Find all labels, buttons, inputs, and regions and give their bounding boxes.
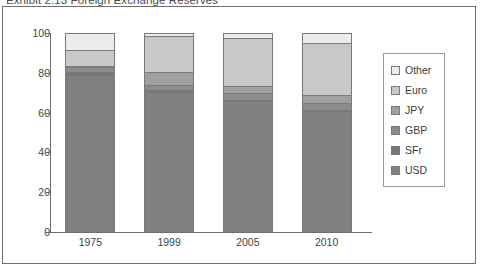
- y-tick-mark: [45, 192, 50, 193]
- bar-segment-2010-Other[interactable]: [303, 34, 351, 43]
- bar-1999[interactable]: [144, 33, 194, 232]
- bar-segment-2010-Euro[interactable]: [303, 43, 351, 95]
- y-tick-mark: [45, 232, 50, 233]
- bar-segment-1975-USD[interactable]: [66, 75, 114, 232]
- bar-segment-2010-GBP[interactable]: [303, 103, 351, 111]
- x-tick-label-1999: 1999: [134, 236, 204, 248]
- y-tick-mark: [45, 152, 50, 153]
- exhibit-caption: Exhibit 2.13 Foreign Exchange Reserves: [6, 0, 406, 8]
- legend-label: Other: [405, 64, 431, 76]
- bar-segment-1975-Euro[interactable]: [66, 50, 114, 66]
- y-tick-40: 40: [0, 147, 50, 157]
- legend-label: JPY: [405, 104, 424, 116]
- bar-1975[interactable]: [65, 33, 115, 232]
- bar-segment-2010-USD[interactable]: [303, 111, 351, 232]
- bar-segment-1999-USD[interactable]: [145, 92, 193, 232]
- legend-swatch-icon: [391, 106, 400, 115]
- legend-item-USD[interactable]: USD: [391, 161, 444, 179]
- bar-segment-2010-JPY[interactable]: [303, 95, 351, 103]
- bar-2010[interactable]: [302, 33, 352, 232]
- legend-swatch-icon: [391, 146, 400, 155]
- x-axis-line: [50, 232, 372, 233]
- bar-2005[interactable]: [223, 33, 273, 232]
- legend-item-Other[interactable]: Other: [391, 61, 444, 79]
- legend-item-Euro[interactable]: Euro: [391, 81, 444, 99]
- x-tick-label-2005: 2005: [213, 236, 283, 248]
- figure-container: Exhibit 2.13 Foreign Exchange Reserves 0…: [0, 0, 480, 269]
- y-tick-100: 100: [0, 28, 50, 38]
- bar-segment-2005-GBP[interactable]: [224, 93, 272, 100]
- y-tick-0: 0: [0, 227, 50, 237]
- legend-label: GBP: [405, 124, 427, 136]
- bar-segment-1975-Other[interactable]: [66, 34, 114, 50]
- x-tick-label-2010: 2010: [292, 236, 362, 248]
- legend-swatch-icon: [391, 66, 400, 75]
- bar-segment-2005-JPY[interactable]: [224, 86, 272, 93]
- legend-label: USD: [405, 164, 427, 176]
- chart-legend: OtherEuroJPYGBPSFrUSD: [383, 53, 445, 187]
- legend-label: Euro: [405, 84, 427, 96]
- y-tick-60: 60: [0, 108, 50, 118]
- legend-label: SFr: [405, 144, 422, 156]
- y-tick-mark: [45, 73, 50, 74]
- legend-item-JPY[interactable]: JPY: [391, 101, 444, 119]
- plot-area: [51, 33, 366, 232]
- y-tick-80: 80: [0, 68, 50, 78]
- bar-segment-2005-USD[interactable]: [224, 101, 272, 232]
- legend-swatch-icon: [391, 126, 400, 135]
- x-tick-label-1975: 1975: [55, 236, 125, 248]
- legend-item-SFr[interactable]: SFr: [391, 141, 444, 159]
- y-tick-mark: [45, 113, 50, 114]
- legend-swatch-icon: [391, 166, 400, 175]
- legend-item-GBP[interactable]: GBP: [391, 121, 444, 139]
- bar-segment-1999-Euro[interactable]: [145, 36, 193, 72]
- bar-segment-2005-Euro[interactable]: [224, 38, 272, 86]
- legend-swatch-icon: [391, 86, 400, 95]
- y-tick-20: 20: [0, 187, 50, 197]
- y-tick-mark: [45, 33, 50, 34]
- bar-segment-1999-JPY[interactable]: [145, 72, 193, 85]
